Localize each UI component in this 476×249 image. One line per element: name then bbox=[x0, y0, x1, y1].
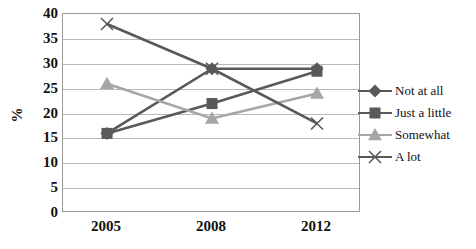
legend-label: Not at all bbox=[395, 83, 443, 99]
square-marker-icon bbox=[370, 108, 381, 119]
legend-item-somewhat[interactable]: Somewhat bbox=[358, 124, 474, 146]
legend-key bbox=[358, 150, 392, 164]
y-axis-tick-label: 35 bbox=[12, 30, 58, 45]
chart-legend: Not at allJust a littleSomewhatA lot bbox=[358, 80, 474, 168]
series-layer bbox=[63, 14, 361, 213]
y-axis-tick-label: 0 bbox=[12, 205, 58, 220]
legend-label: Just a little bbox=[395, 105, 451, 121]
legend-item-a-lot[interactable]: A lot bbox=[358, 146, 474, 168]
plot-area bbox=[62, 13, 360, 212]
gridline bbox=[63, 213, 359, 214]
y-axis-tick-label: 25 bbox=[12, 80, 58, 95]
legend-marker bbox=[358, 128, 392, 142]
y-axis-tick-label: 5 bbox=[12, 180, 58, 195]
legend-label: A lot bbox=[395, 149, 421, 165]
legend-key bbox=[358, 84, 392, 98]
y-axis-tick-label: 20 bbox=[12, 105, 58, 120]
legend-label: Somewhat bbox=[395, 127, 450, 143]
y-axis-tick-labels: 4035302520151050 bbox=[10, 0, 58, 249]
cross-marker-icon bbox=[311, 117, 323, 129]
y-axis-tick-label: 15 bbox=[12, 130, 58, 145]
diamond-marker-icon bbox=[369, 85, 382, 98]
triangle-marker-icon bbox=[100, 77, 114, 89]
triangle-marker-icon bbox=[310, 87, 324, 99]
legend-marker bbox=[358, 84, 392, 98]
legend-item-just-a-little[interactable]: Just a little bbox=[358, 102, 474, 124]
square-marker-icon bbox=[102, 128, 113, 139]
cross-marker-icon bbox=[369, 151, 381, 163]
x-axis-tick-label: 2012 bbox=[301, 218, 331, 235]
line-chart: % 4035302520151050 200520082012 Not at a… bbox=[0, 0, 476, 249]
triangle-marker-icon bbox=[368, 128, 382, 140]
y-axis-tick-label: 30 bbox=[12, 55, 58, 70]
series-just-a-little bbox=[102, 66, 323, 139]
x-axis-tick-labels: 200520082012 bbox=[62, 218, 360, 242]
square-marker-icon bbox=[207, 98, 218, 109]
legend-marker bbox=[358, 150, 392, 164]
legend-item-not-at-all[interactable]: Not at all bbox=[358, 80, 474, 102]
y-axis-tick-label: 40 bbox=[12, 6, 58, 21]
y-axis-tick-label: 10 bbox=[12, 155, 58, 170]
legend-marker bbox=[358, 106, 392, 120]
cross-marker-icon bbox=[101, 18, 113, 30]
x-axis-tick-label: 2005 bbox=[91, 218, 121, 235]
square-marker-icon bbox=[312, 66, 323, 77]
x-axis-tick-label: 2008 bbox=[196, 218, 226, 235]
legend-key bbox=[358, 128, 392, 142]
legend-key bbox=[358, 106, 392, 120]
